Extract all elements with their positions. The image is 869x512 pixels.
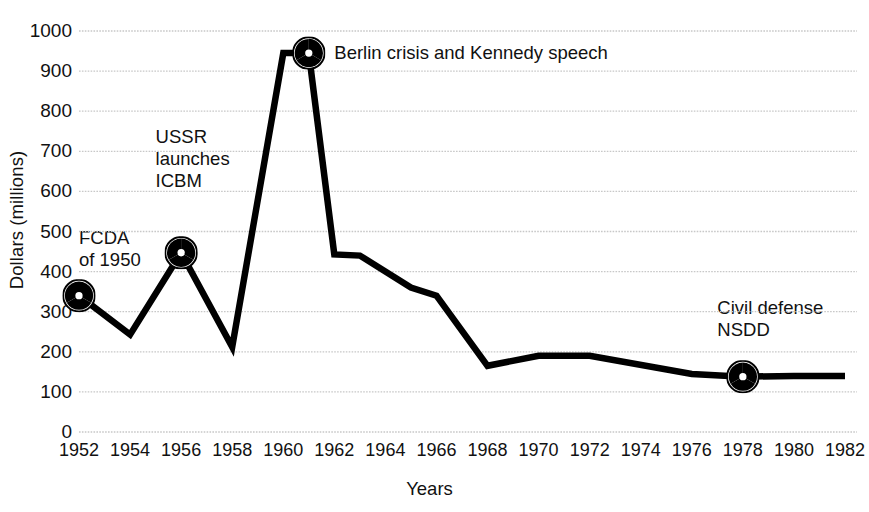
data-line-series [79, 53, 845, 377]
fallout-shelter-marker-nsdd [723, 361, 758, 396]
data-line [79, 53, 845, 377]
fallout-shelter-marker-berlin [289, 37, 324, 72]
fallout-shelter-marker-fcda [60, 280, 95, 315]
event-markers [60, 37, 759, 396]
x-axis-label: Years [0, 478, 859, 500]
